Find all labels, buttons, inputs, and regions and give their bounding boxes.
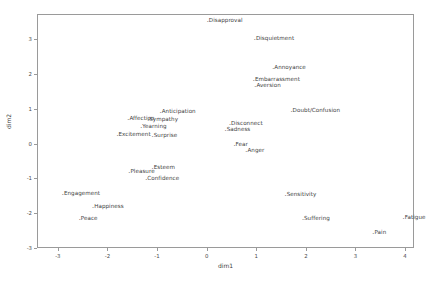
point-text: Doubt/Confusion — [293, 107, 340, 113]
x-tick — [107, 248, 108, 251]
data-point-label: .Embarrassment — [253, 76, 300, 82]
data-point-label: .Peace — [79, 215, 98, 221]
data-point-label: .Annoyance — [272, 64, 306, 70]
x-tick — [207, 248, 208, 251]
data-point-label: .Disapproval — [207, 17, 243, 23]
point-text: Engagement — [64, 190, 100, 196]
x-tick-label: 2 — [304, 253, 307, 259]
data-point-label: .Aversion — [254, 82, 281, 88]
y-axis: 3210-1-2-3 — [21, 14, 37, 248]
x-tick — [405, 248, 406, 251]
scatter-plot-figure: .Disapproval.Disquietment.Annoyance.Emba… — [0, 0, 431, 281]
data-point-label: .Anger — [245, 147, 264, 153]
point-text: Surprise — [154, 132, 178, 138]
y-tick — [34, 178, 37, 179]
y-tick — [34, 39, 37, 40]
y-tick-label: 3 — [29, 36, 32, 42]
point-text: Yearning — [142, 123, 166, 129]
y-tick — [34, 248, 37, 249]
plot-area: .Disapproval.Disquietment.Annoyance.Emba… — [38, 15, 413, 247]
point-text: Happiness — [94, 203, 124, 209]
y-tick-label: -3 — [27, 245, 32, 251]
data-point-label: .Suffering — [302, 215, 330, 221]
data-point-label: .Pain — [372, 229, 386, 235]
data-point-label: .Happiness — [92, 203, 124, 209]
data-point-label: .Disconnect — [229, 120, 263, 126]
y-tick-label: 0 — [29, 141, 32, 147]
data-point-label: .Confidence — [145, 175, 179, 181]
point-text: Anticipation — [162, 108, 196, 114]
data-point-label: .Sensitivity — [285, 191, 317, 197]
x-axis-label: dim1 — [37, 262, 414, 269]
data-point-label: .Doubt/Confusion — [290, 107, 340, 113]
x-tick-label: 3 — [354, 253, 357, 259]
data-point-label: .Surprise — [152, 132, 178, 138]
y-tick — [34, 74, 37, 75]
data-point-label: .Disquietment — [254, 35, 294, 41]
data-point-label: .Yearning — [140, 123, 166, 129]
point-text: Peace — [81, 215, 98, 221]
data-point-label: .Esteem — [152, 164, 175, 170]
y-tick — [34, 144, 37, 145]
y-tick — [34, 109, 37, 110]
x-tick — [256, 248, 257, 251]
point-text: Suffering — [304, 215, 330, 221]
x-tick-label: -3 — [55, 253, 60, 259]
y-tick-label: 2 — [29, 71, 32, 77]
data-point-label: .Pleasure — [128, 168, 154, 174]
point-text: Pain — [374, 229, 386, 235]
data-point-label: .Engagement — [62, 190, 100, 196]
x-tick-label: -2 — [105, 253, 110, 259]
point-text: Disapproval — [209, 17, 243, 23]
point-text: Disquietment — [256, 35, 294, 41]
plot-frame: .Disapproval.Disquietment.Annoyance.Emba… — [37, 14, 414, 248]
point-text: Confidence — [147, 175, 179, 181]
y-tick-label: -1 — [27, 175, 32, 181]
point-text: Sadness — [227, 126, 251, 132]
x-tick — [58, 248, 59, 251]
point-text: Aversion — [256, 82, 280, 88]
x-tick-label: 0 — [205, 253, 208, 259]
data-point-label: .Fatigue — [403, 214, 426, 220]
point-text: Pleasure — [130, 168, 154, 174]
y-tick — [34, 213, 37, 214]
point-text: Anger — [247, 147, 264, 153]
point-text: Disconnect — [231, 120, 263, 126]
point-text: Excitement — [119, 131, 151, 137]
data-point-label: .Excitement — [116, 131, 150, 137]
x-tick — [355, 248, 356, 251]
x-tick-label: 4 — [403, 253, 406, 259]
x-tick — [157, 248, 158, 251]
x-tick-label: -1 — [154, 253, 159, 259]
point-text: Sympathy — [149, 116, 178, 122]
point-text: Fatigue — [405, 214, 426, 220]
x-tick — [306, 248, 307, 251]
point-text: Esteem — [154, 164, 175, 170]
y-axis-label: dim2 — [5, 102, 12, 142]
point-text: Annoyance — [274, 64, 306, 70]
data-point-label: .Sympathy — [147, 116, 178, 122]
point-text: Sensitivity — [287, 191, 317, 197]
y-tick-label: -2 — [27, 210, 32, 216]
y-tick-label: 1 — [29, 106, 32, 112]
x-tick-label: 1 — [255, 253, 258, 259]
point-text: Embarrassment — [255, 76, 300, 82]
data-point-label: .Anticipation — [160, 108, 196, 114]
data-point-label: .Sadness — [225, 126, 251, 132]
